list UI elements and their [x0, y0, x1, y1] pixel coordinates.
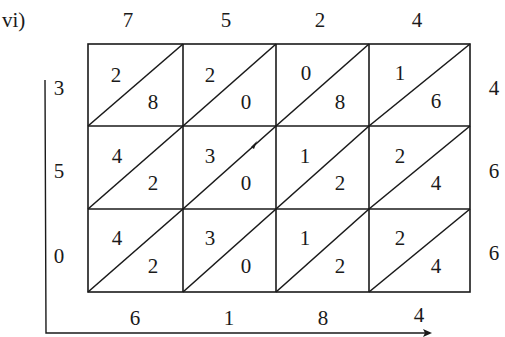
cell-diagonal — [369, 209, 470, 292]
cell-diagonal — [88, 209, 183, 292]
result-digit: 8 — [318, 306, 329, 330]
cell-ones-digit: 4 — [431, 254, 442, 278]
cell-tens-digit: 2 — [205, 63, 216, 87]
result-digit: 3 — [54, 76, 65, 100]
cell-tens-digit: 1 — [300, 226, 311, 250]
cell-tens-digit: 2 — [395, 226, 406, 250]
result-digit: 6 — [130, 306, 141, 330]
result-digit: 1 — [224, 306, 235, 330]
problem-label: vi) — [2, 8, 25, 32]
cell-tens-digit: 3 — [205, 226, 216, 250]
result-digit: 5 — [54, 159, 65, 183]
multiplier-digit: 6 — [489, 241, 500, 265]
cell-tens-digit: 2 — [395, 144, 406, 168]
cell-diagonal — [276, 209, 369, 292]
cell-diagonal — [183, 209, 276, 292]
cell-ones-digit: 2 — [148, 171, 159, 195]
result-digit: 4 — [414, 303, 425, 327]
cell-tens-digit: 2 — [111, 63, 122, 87]
result-bottom-row: 6 1 8 4 — [130, 303, 425, 330]
cell-tens-digit: 1 — [395, 61, 406, 85]
cell-tens-digit: 1 — [300, 144, 311, 168]
cell-ones-digit: 0 — [241, 254, 252, 278]
grid-border — [88, 44, 470, 292]
cell-tens-digit: 4 — [112, 226, 123, 250]
multiplicand-digit: 2 — [315, 8, 326, 32]
multiplicand-digit: 7 — [123, 8, 134, 32]
cell-ones-digit: 0 — [241, 90, 252, 114]
cell-ones-digit: 8 — [335, 90, 346, 114]
cell-tens-digit: 3 — [205, 144, 216, 168]
cell-diagonal — [88, 126, 183, 209]
cell-diagonal — [183, 126, 276, 209]
result-digit: 0 — [54, 244, 65, 268]
multiplier-digit: 4 — [489, 76, 500, 100]
cell-ones-digit: 2 — [335, 254, 346, 278]
cell-ones-digit: 8 — [148, 90, 159, 114]
result-left-column: 3 5 0 — [54, 76, 65, 268]
cell-ones-digit: 4 — [431, 171, 442, 195]
cell-diagonal — [369, 126, 470, 209]
cell-diagonal — [183, 44, 276, 126]
cell-ones-digit: 2 — [148, 254, 159, 278]
cell-tens-digit: 4 — [112, 144, 123, 168]
cell-ones-digit: 0 — [241, 171, 252, 195]
cell-ones-digit: 2 — [335, 171, 346, 195]
lattice-multiplication-diagram: vi) 7 5 2 4 2 8 2 0 0 8 1 — [0, 0, 505, 337]
cell-diagonal — [369, 44, 470, 126]
cell-ones-digit: 6 — [431, 89, 442, 113]
multiplicand-digit: 5 — [221, 8, 232, 32]
cell-tens-digit: 0 — [301, 61, 312, 85]
multiplicand-row: 7 5 2 4 — [123, 8, 423, 32]
multiplier-digit: 6 — [489, 159, 500, 183]
cell-diagonal — [276, 126, 369, 209]
multiplicand-digit: 4 — [412, 8, 423, 32]
cell-diagonal — [276, 44, 369, 126]
cell-diagonal — [88, 44, 183, 126]
lattice-grid — [88, 44, 470, 292]
multiplier-column: 4 6 6 — [489, 76, 500, 265]
